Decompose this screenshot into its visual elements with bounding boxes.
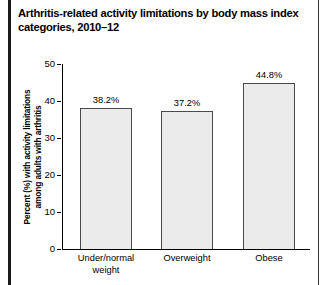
y-axis-tick-mark xyxy=(57,138,61,139)
plot-area: 38.2%37.2%44.8% xyxy=(62,64,310,249)
bar: 37.2% xyxy=(161,111,213,249)
chart-title: Arthritis-related activity limitations b… xyxy=(18,6,308,34)
figure-left-border xyxy=(8,0,11,285)
figure-right-border xyxy=(318,0,319,285)
bar-value-label: 37.2% xyxy=(174,98,200,109)
y-axis-tick-label: 50 xyxy=(44,58,55,69)
bar-value-label: 38.2% xyxy=(93,95,119,106)
chart-title-line-2: categories, 2010–12 xyxy=(18,20,308,34)
bar: 38.2% xyxy=(80,108,132,249)
x-axis-category-label-line: Obese xyxy=(219,253,319,265)
y-axis-tick-mark xyxy=(57,101,61,102)
y-axis-title-line-2: among adults with arthritis xyxy=(33,64,44,250)
bar: 44.8% xyxy=(243,83,295,249)
y-axis-tick-label: 20 xyxy=(44,169,55,180)
chart-title-line-1: Arthritis-related activity limitations b… xyxy=(18,6,308,20)
y-axis-tick-label: 10 xyxy=(44,206,55,217)
bar-value-label: 44.8% xyxy=(256,70,282,81)
y-axis-title-line-1: Percent (%) with activity limitations xyxy=(22,64,33,250)
x-axis-line xyxy=(62,249,310,250)
x-axis-category-label-line: weight xyxy=(56,265,156,277)
y-axis-tick-label: 40 xyxy=(44,95,55,106)
y-axis-tick-mark xyxy=(57,249,61,250)
y-axis-tick-label: 30 xyxy=(44,132,55,143)
y-axis-tick-mark xyxy=(57,212,61,213)
x-axis-category-label: Obese xyxy=(219,253,319,265)
y-axis-tick-mark xyxy=(57,175,61,176)
y-axis-tick-label: 0 xyxy=(50,243,55,254)
chart-figure: Arthritis-related activity limitations b… xyxy=(0,0,333,285)
y-axis-tick-mark xyxy=(57,64,61,65)
